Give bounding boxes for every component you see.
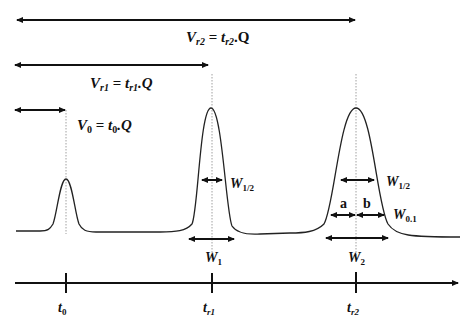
tr1-tick-label: tr1	[203, 300, 215, 317]
vr1-label: Vr1 = tr1.Q	[90, 75, 153, 93]
w01-label: W0.1	[393, 207, 417, 224]
v0-label: V0 = t0.Q	[77, 117, 132, 135]
t0-tick-label: t0	[58, 300, 67, 317]
tr2-tick-label: tr2	[347, 300, 359, 317]
b-label: b	[363, 196, 371, 211]
chromatogram-diagram: Vr2 = tr2.Q Vr1 = tr1.Q V0 = t0.Q W1/2 W…	[0, 0, 472, 331]
w2-label: W2	[348, 250, 365, 267]
w-half-2-label: W1/2	[386, 174, 410, 191]
vr2-label: Vr2 = tr2.Q	[186, 29, 250, 47]
a-label: a	[340, 196, 347, 211]
w1-label: W1	[205, 250, 222, 267]
w-half-1-label: W1/2	[230, 176, 254, 193]
